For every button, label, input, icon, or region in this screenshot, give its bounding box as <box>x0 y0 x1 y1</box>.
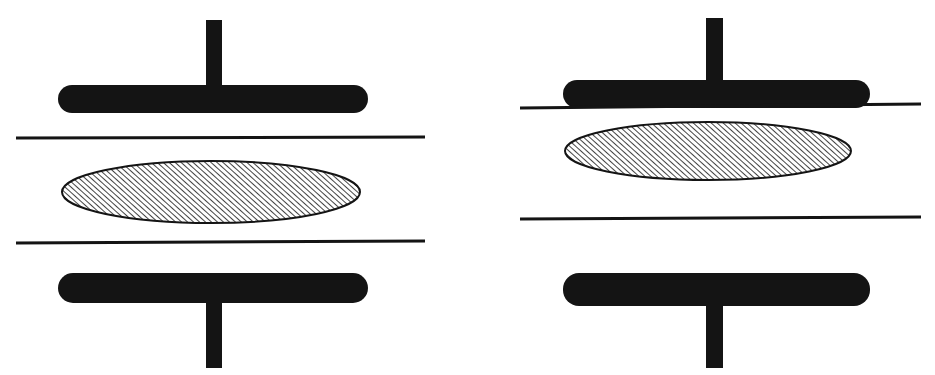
right-lower-bar <box>563 273 870 306</box>
right-lower-stem <box>706 303 723 368</box>
left-lower-reference-line <box>16 241 425 243</box>
diagram-svg <box>0 0 935 375</box>
right-hatched-ellipse <box>565 122 851 180</box>
figure-canvas <box>0 0 935 375</box>
left-lower-bar <box>58 273 368 303</box>
left-upper-stem <box>206 20 222 90</box>
left-upper-bar <box>58 85 368 113</box>
right-lower-reference-line <box>520 217 921 219</box>
right-upper-stem <box>706 18 723 86</box>
left-upper-reference-line <box>16 137 425 138</box>
left-hatched-ellipse <box>62 161 360 223</box>
left-lower-stem <box>206 300 222 368</box>
